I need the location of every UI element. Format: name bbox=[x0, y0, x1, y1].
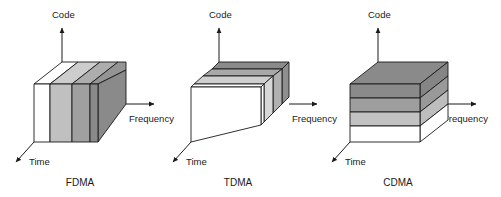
cdma-code-axis: Code bbox=[368, 9, 391, 62]
cdma-front-slice-3 bbox=[350, 112, 420, 126]
fdma-front-slice-4 bbox=[90, 84, 98, 142]
tdma-side-slice-3 bbox=[273, 69, 282, 113]
tdma-code-axis: Code bbox=[209, 9, 232, 62]
fdma-frequency-axis: Frequency bbox=[126, 104, 174, 124]
fdma-code-axis-label: Code bbox=[52, 9, 75, 20]
figure-root: Code Frequency Time F bbox=[0, 0, 501, 197]
tdma-top-slice-2 bbox=[194, 76, 273, 84]
fdma-front-slice-2 bbox=[50, 84, 72, 142]
cdma-frequency-axis-label: Frequency bbox=[443, 113, 488, 124]
tdma-top-slice-3 bbox=[203, 69, 282, 76]
cdma-front-slice-4 bbox=[350, 126, 420, 142]
tdma-time-axis-label: Time bbox=[186, 156, 207, 167]
tdma-caption: TDMA bbox=[224, 177, 253, 188]
fdma-front-slice-1 bbox=[34, 84, 50, 142]
cdma-diagram: Code Frequency Time CDMA bbox=[332, 9, 488, 188]
tdma-front-face bbox=[191, 87, 261, 142]
tdma-time-axis: Time bbox=[173, 142, 207, 167]
tdma-frequency-axis-label: Frequency bbox=[292, 113, 337, 124]
cdma-code-axis-label: Code bbox=[368, 9, 391, 20]
fdma-frequency-axis-label: Frequency bbox=[129, 113, 174, 124]
fdma-front-slice-3 bbox=[72, 84, 90, 142]
tdma-frequency-axis: Frequency bbox=[289, 104, 337, 124]
cdma-frequency-axis: Frequency bbox=[443, 104, 488, 124]
fdma-code-axis: Code bbox=[52, 9, 75, 62]
cdma-time-axis: Time bbox=[332, 142, 366, 167]
tdma-side-slice-4 bbox=[282, 62, 289, 104]
tdma-side-slice-2 bbox=[264, 76, 273, 122]
cdma-front-slice-2 bbox=[350, 98, 420, 112]
multiple-access-diagram: Code Frequency Time F bbox=[0, 0, 501, 197]
fdma-caption: FDMA bbox=[66, 177, 95, 188]
tdma-diagram: Code Frequency Time TDMA bbox=[173, 9, 337, 188]
cdma-front-slice-1 bbox=[350, 84, 420, 98]
fdma-time-axis-label: Time bbox=[29, 156, 50, 167]
tdma-code-axis-label: Code bbox=[209, 9, 232, 20]
fdma-time-axis: Time bbox=[16, 142, 50, 167]
cdma-caption: CDMA bbox=[383, 177, 413, 188]
tdma-top-slice-4 bbox=[212, 62, 289, 69]
cdma-time-axis-label: Time bbox=[345, 156, 366, 167]
fdma-diagram: Code Frequency Time F bbox=[16, 9, 174, 188]
